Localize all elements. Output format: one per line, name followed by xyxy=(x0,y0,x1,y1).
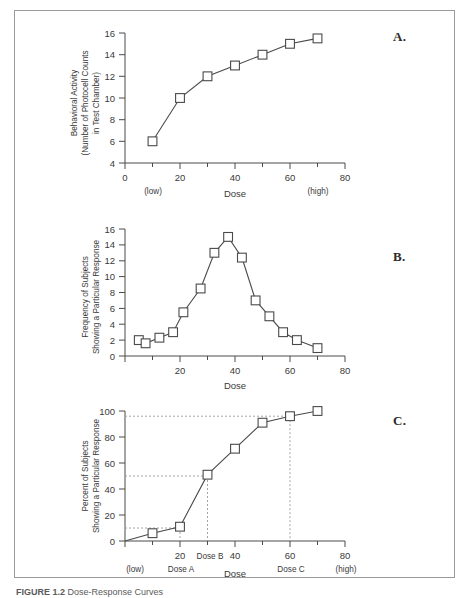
chart-c-annotation-dose-b: Dose B xyxy=(197,552,224,561)
svg-text:0: 0 xyxy=(110,536,115,547)
figure-caption-number: FIGURE 1.2 xyxy=(16,587,65,597)
chart-panel-c: Percent of Subjects Showing a Particular… xyxy=(15,391,456,579)
svg-text:in Test Chamber): in Test Chamber) xyxy=(92,72,101,134)
svg-text:20: 20 xyxy=(104,510,115,521)
svg-text:6: 6 xyxy=(110,303,115,314)
panel-letter-b: B. xyxy=(393,249,406,265)
svg-text:80: 80 xyxy=(340,365,351,376)
svg-text:(Number of Photocell Counts: (Number of Photocell Counts xyxy=(81,50,90,155)
svg-text:80: 80 xyxy=(340,172,351,183)
chart-c-annotation-high: (high) xyxy=(336,565,357,574)
chart-panel-a: Behavioral Activity (Number of Photocell… xyxy=(15,11,456,201)
svg-text:12: 12 xyxy=(104,71,115,82)
chart-c-y-axis-label: Percent of Subjects Showing a Particular… xyxy=(81,418,101,533)
chart-c-annotation-low: (low) xyxy=(126,565,144,574)
chart-panel-b: Frequency of Subjects Showing a Particul… xyxy=(15,201,456,391)
chart-c-data-points xyxy=(148,407,322,538)
svg-text:60: 60 xyxy=(285,365,296,376)
chart-a-x-axis-title: Dose xyxy=(224,188,246,199)
figure-frame: Behavioral Activity (Number of Photocell… xyxy=(14,10,455,578)
chart-a-data-points xyxy=(148,34,322,146)
svg-text:20: 20 xyxy=(175,550,186,561)
svg-text:14: 14 xyxy=(104,49,115,60)
svg-text:16: 16 xyxy=(104,224,115,235)
svg-text:12: 12 xyxy=(104,255,115,266)
chart-b-series-line xyxy=(139,237,318,348)
figure-caption-text: Dose-Response Curves xyxy=(68,587,164,597)
chart-b-x-ticks: 20 40 60 80 xyxy=(125,356,350,376)
chart-c-annotation-dose-c: Dose C xyxy=(277,565,304,574)
chart-a-annotation-high: (high) xyxy=(308,187,329,196)
svg-text:14: 14 xyxy=(104,239,115,250)
chart-b-svg: Frequency of Subjects Showing a Particul… xyxy=(15,201,456,391)
chart-c-x-ticks: 20 40 60 80 Dose B xyxy=(125,541,350,561)
svg-text:8: 8 xyxy=(110,287,115,298)
chart-b-data-points xyxy=(134,233,322,353)
chart-b-y-ticks: 0 2 4 6 8 10 12 14 16 xyxy=(104,224,125,362)
chart-a-y-axis-label: Behavioral Activity (Number of Photocell… xyxy=(70,50,101,155)
svg-text:60: 60 xyxy=(104,458,115,469)
svg-text:Behavioral Activity: Behavioral Activity xyxy=(70,69,79,136)
svg-text:60: 60 xyxy=(285,550,296,561)
svg-text:60: 60 xyxy=(285,172,296,183)
chart-b-y-axis-label: Frequency of Subjects Showing a Particul… xyxy=(81,239,101,354)
svg-text:10: 10 xyxy=(104,271,115,282)
chart-a-y-ticks: 4 6 8 10 12 14 16 xyxy=(104,28,125,169)
chart-a-svg: Behavioral Activity (Number of Photocell… xyxy=(15,11,456,201)
svg-text:80: 80 xyxy=(104,432,115,443)
chart-b-x-axis-title: Dose xyxy=(224,380,246,391)
chart-a-annotation-low: (low) xyxy=(144,187,162,196)
svg-text:40: 40 xyxy=(230,550,241,561)
svg-text:4: 4 xyxy=(110,319,115,330)
svg-text:8: 8 xyxy=(110,114,115,125)
svg-text:40: 40 xyxy=(230,365,241,376)
chart-c-annotation-dose-a: Dose A xyxy=(168,565,195,574)
svg-text:2: 2 xyxy=(110,335,115,346)
svg-text:0: 0 xyxy=(110,351,115,362)
svg-text:Showing a Particular Response: Showing a Particular Response xyxy=(92,239,101,354)
svg-text:40: 40 xyxy=(230,172,241,183)
svg-text:Frequency of Subjects: Frequency of Subjects xyxy=(81,256,90,337)
panel-letter-a: A. xyxy=(393,29,406,45)
chart-c-svg: Percent of Subjects Showing a Particular… xyxy=(15,391,456,579)
svg-text:Percent of Subjects: Percent of Subjects xyxy=(81,441,90,512)
svg-text:80: 80 xyxy=(340,550,351,561)
svg-text:4: 4 xyxy=(110,158,115,169)
svg-text:0: 0 xyxy=(122,172,127,183)
panel-letter-c: C. xyxy=(393,413,406,429)
svg-text:16: 16 xyxy=(104,28,115,39)
svg-text:20: 20 xyxy=(175,172,186,183)
figure-caption: FIGURE 1.2 Dose-Response Curves xyxy=(16,586,456,598)
svg-text:Showing a Particular Response: Showing a Particular Response xyxy=(92,418,101,533)
svg-text:40: 40 xyxy=(104,484,115,495)
chart-c-x-axis-title: Dose xyxy=(224,568,246,579)
chart-a-x-ticks: 0 20 40 60 80 xyxy=(122,163,350,183)
chart-c-y-ticks: 0 20 40 60 80 100 xyxy=(99,406,125,547)
svg-text:10: 10 xyxy=(104,93,115,104)
chart-a-series-line xyxy=(153,38,318,141)
svg-text:6: 6 xyxy=(110,136,115,147)
svg-text:20: 20 xyxy=(175,365,186,376)
svg-text:100: 100 xyxy=(99,406,115,417)
